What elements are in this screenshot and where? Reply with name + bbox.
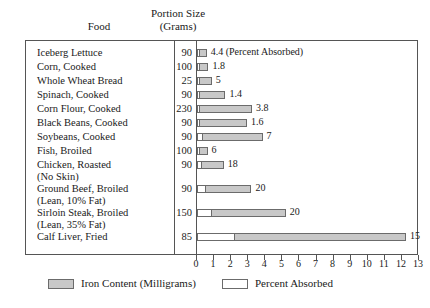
- bar-value-label: 6: [212, 144, 217, 156]
- portion-grams: 25: [174, 75, 192, 87]
- food-name-line-1: Black Beans, Cooked: [37, 117, 128, 128]
- portion-grams: 100: [174, 145, 192, 157]
- food-name: Soybeans, Cooked: [37, 131, 170, 143]
- bar-area: 1.4: [197, 89, 417, 101]
- food-name: Corn, Cooked: [37, 61, 170, 73]
- axis-tick-label: 13: [408, 258, 428, 270]
- bar-segment-iron: [199, 77, 212, 85]
- column-header-portion: Portion Size (Grams): [118, 7, 238, 33]
- bar-area: 4.4 (Percent Absorbed): [197, 47, 417, 59]
- legend-swatch-iron: [48, 279, 74, 289]
- portion-grams: 90: [174, 117, 192, 129]
- bar-area: 6: [197, 145, 417, 157]
- food-name-line-1: Spinach, Cooked: [37, 89, 109, 100]
- portion-grams: 90: [174, 131, 192, 143]
- bar-value-label: 1.8: [212, 60, 225, 72]
- bar-area: 3.8: [197, 103, 417, 115]
- food-name: Calf Liver, Fried: [37, 231, 170, 243]
- bar-segment-iron: [205, 185, 251, 193]
- food-name-line-2: (Lean, 10% Fat): [37, 195, 170, 207]
- food-name-line-1: Ground Beef, Broiled: [37, 183, 128, 194]
- portion-line-2: (Grams): [118, 20, 238, 33]
- bar-segment-iron: [234, 233, 406, 241]
- bar-value-label: 20: [290, 206, 300, 218]
- portion-grams: 90: [174, 183, 192, 195]
- food-name: Iceberg Lettuce: [37, 47, 170, 59]
- food-name: Chicken, Roasted(No Skin): [37, 159, 170, 183]
- legend-label-absorbed: Percent Absorbed: [255, 277, 333, 290]
- bar-area: 15: [197, 231, 417, 243]
- legend-label-iron: Iron Content (Milligrams): [81, 277, 196, 290]
- food-name: Corn Flour, Cooked: [37, 103, 170, 115]
- portion-grams: 85: [174, 231, 192, 243]
- bar-value-label: 18: [228, 158, 238, 170]
- food-name-line-2: (No Skin): [37, 171, 170, 183]
- bar-segment-iron: [199, 49, 207, 57]
- food-name: Whole Wheat Bread: [37, 75, 170, 87]
- bar-value-label: 15: [410, 230, 420, 242]
- portion-grams: 230: [174, 103, 192, 115]
- bar-area: 1.6: [197, 117, 417, 129]
- bar-segment-iron: [202, 133, 263, 141]
- food-name-line-1: Sirloin Steak, Broiled: [37, 207, 128, 218]
- food-name-line-1: Corn Flour, Cooked: [37, 103, 121, 114]
- portion-grams: 90: [174, 159, 192, 171]
- bar-segment-absorbed: [197, 233, 235, 241]
- food-name: Black Beans, Cooked: [37, 117, 170, 129]
- bar-area: 7: [197, 131, 417, 143]
- food-name: Sirloin Steak, Broiled(Lean, 35% Fat): [37, 207, 170, 231]
- table-rows: Iceberg Lettuce904.4 (Percent Absorbed)C…: [26, 41, 417, 254]
- food-name-line-2: (Lean, 35% Fat): [37, 219, 170, 231]
- bar-segment-iron: [199, 63, 208, 71]
- iron-content-chart: Food Portion Size (Grams) Iceberg Lettuc…: [0, 0, 430, 308]
- bar-value-label: 4.4 (Percent Absorbed): [211, 46, 303, 58]
- bar-area: 18: [197, 159, 417, 171]
- portion-grams: 90: [174, 89, 192, 101]
- bar-segment-iron: [201, 161, 224, 169]
- portion-grams: 90: [174, 47, 192, 59]
- bar-area: 1.8: [197, 61, 417, 73]
- portion-grams: 100: [174, 61, 192, 73]
- food-name-line-1: Calf Liver, Fried: [37, 231, 107, 242]
- food-name-line-1: Whole Wheat Bread: [37, 75, 123, 86]
- bar-segment-iron: [199, 105, 252, 113]
- table-frame: Iceberg Lettuce904.4 (Percent Absorbed)C…: [25, 40, 418, 255]
- bar-value-label: 20: [256, 182, 266, 194]
- food-name-line-1: Chicken, Roasted: [37, 159, 111, 170]
- portion-line-1: Portion Size: [118, 7, 238, 20]
- legend-item-iron: Iron Content (Milligrams): [48, 277, 196, 290]
- food-name-line-1: Soybeans, Cooked: [37, 131, 115, 142]
- food-name-line-1: Corn, Cooked: [37, 61, 96, 72]
- bar-segment-absorbed: [197, 209, 212, 217]
- food-name: Fish, Broiled: [37, 145, 170, 157]
- legend-swatch-absorbed: [222, 279, 248, 289]
- bar-value-label: 5: [216, 74, 221, 86]
- bar-value-label: 1.6: [251, 116, 264, 128]
- bar-area: 20: [197, 183, 417, 195]
- bar-segment-iron: [211, 209, 286, 217]
- food-name-line-1: Fish, Broiled: [37, 145, 92, 156]
- chart-legend: Iron Content (Milligrams) Percent Absorb…: [0, 277, 430, 297]
- bar-segment-iron: [199, 91, 225, 99]
- chart-header: Food Portion Size (Grams): [0, 4, 430, 36]
- legend-item-absorbed: Percent Absorbed: [222, 277, 333, 290]
- bar-segment-iron: [199, 119, 247, 127]
- portion-grams: 150: [174, 207, 192, 219]
- bar-area: 5: [197, 75, 417, 87]
- bar-value-label: 7: [267, 130, 272, 142]
- food-name-line-1: Iceberg Lettuce: [37, 47, 102, 58]
- bar-segment-iron: [199, 147, 208, 155]
- bar-value-label: 3.8: [256, 102, 269, 114]
- bar-value-label: 1.4: [229, 88, 242, 100]
- food-name: Ground Beef, Broiled(Lean, 10% Fat): [37, 183, 170, 207]
- bar-area: 20: [197, 207, 417, 219]
- x-axis-tick-labels: 012345678910111213: [0, 258, 430, 272]
- food-name: Spinach, Cooked: [37, 89, 170, 101]
